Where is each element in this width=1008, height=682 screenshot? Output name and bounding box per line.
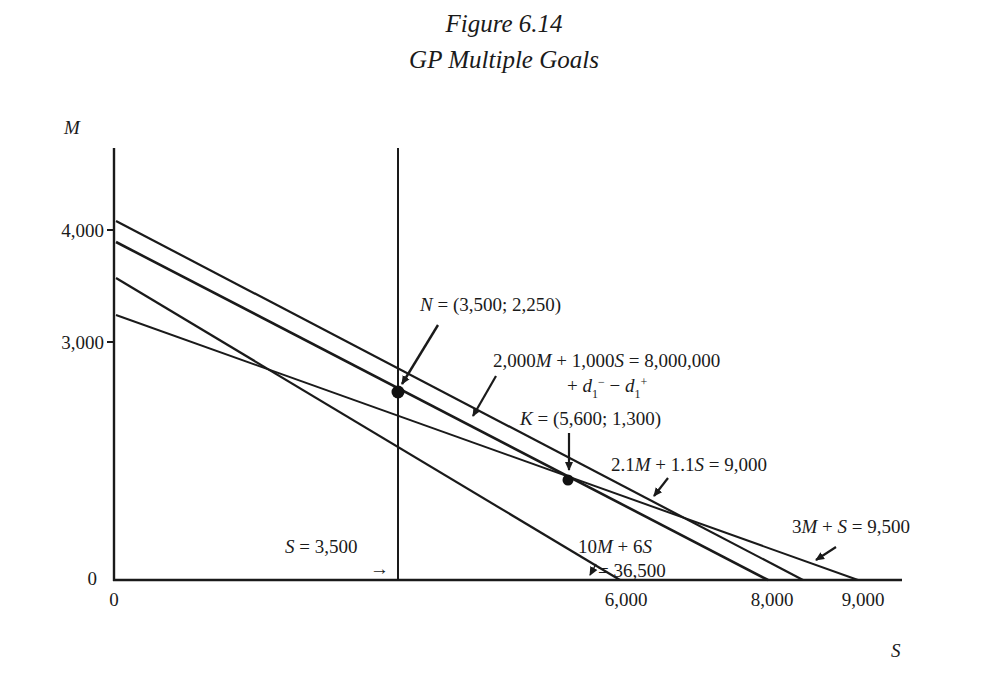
x-tick-label-6000: 6,000 <box>605 589 648 610</box>
y-tick-label-3000: 3,000 <box>61 332 104 353</box>
label-10M-line2: = 36,500 <box>598 560 666 581</box>
line-2.1M-1.1S-9000 <box>116 221 803 580</box>
label-K: K = (5,600; 1,300) <box>519 408 661 430</box>
x-axis-label: S <box>891 640 901 661</box>
arrow-2.1M <box>654 478 668 496</box>
arrow-10M <box>590 564 596 575</box>
label-3M: 3M + S = 9,500 <box>792 516 910 537</box>
label-10M-line1: 10M + 6S <box>578 536 653 557</box>
point-N <box>392 386 405 399</box>
x-tick-label-9000: 9,000 <box>842 589 885 610</box>
line-2000M-1000S-8000000 <box>116 242 768 580</box>
x-tick-label-8000: 8,000 <box>751 589 794 610</box>
label-2000M-line2: + d1− − d1+ <box>567 375 647 401</box>
arrow-N <box>402 325 438 384</box>
label-2000M-line1: 2,000M + 1,000S = 8,000,000 <box>493 350 720 371</box>
arrow-3M <box>816 547 836 560</box>
y-axis-label: M <box>63 117 81 138</box>
line-3M-S-9500 <box>116 315 858 580</box>
y-tick-label-0: 0 <box>88 568 98 589</box>
label-S-3500: S = 3,500 <box>285 536 357 557</box>
arrow-S-3500: → <box>370 558 389 579</box>
chart-canvas: M S 4,000 3,000 0 0 6,000 8,000 9,000 N … <box>0 0 1008 682</box>
y-tick-label-4000: 4,000 <box>61 220 104 241</box>
point-K <box>563 475 574 486</box>
line-10M-6S-36500 <box>116 278 620 580</box>
x-tick-label-0: 0 <box>109 589 119 610</box>
label-N: N = (3,500; 2,250) <box>419 294 561 316</box>
arrow-2000M <box>473 376 496 416</box>
label-2.1M: 2.1M + 1.1S = 9,000 <box>611 454 767 475</box>
